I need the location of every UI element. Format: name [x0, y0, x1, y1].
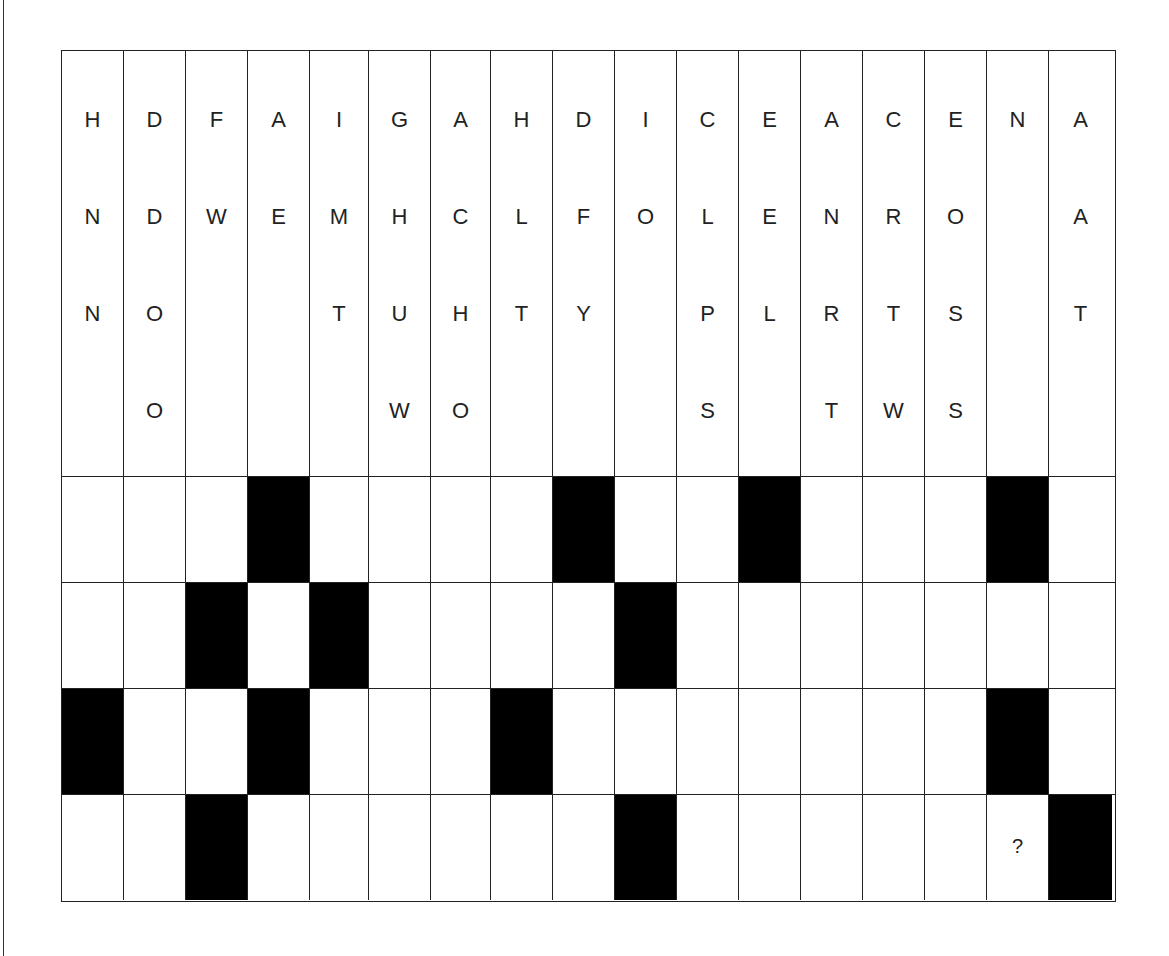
answer-cell[interactable]	[615, 689, 677, 794]
answer-cell[interactable]	[863, 689, 925, 794]
column-letter: N	[62, 303, 123, 325]
answer-cell[interactable]	[369, 689, 431, 794]
grid-row	[62, 583, 1115, 689]
answer-cell[interactable]	[431, 477, 491, 582]
answer-cell[interactable]	[186, 689, 248, 794]
column-letter: M	[310, 206, 368, 228]
column-letter: C	[863, 109, 924, 131]
letter-column: DFY	[553, 51, 615, 476]
answer-cell[interactable]	[677, 689, 739, 794]
column-letter: R	[863, 206, 924, 228]
answer-cell[interactable]	[925, 477, 987, 582]
column-letter: N	[987, 109, 1048, 131]
answer-cell[interactable]	[1049, 689, 1112, 794]
answer-cell[interactable]	[739, 795, 801, 900]
black-cell	[739, 477, 801, 582]
column-letter: W	[186, 206, 247, 228]
answer-cell[interactable]	[369, 795, 431, 900]
black-cell	[1049, 795, 1112, 900]
column-letter: H	[431, 303, 490, 325]
answer-cell[interactable]	[925, 583, 987, 688]
answer-cell[interactable]	[310, 477, 369, 582]
answer-cell[interactable]	[124, 477, 186, 582]
answer-cell[interactable]	[801, 477, 863, 582]
answer-cell[interactable]	[801, 689, 863, 794]
answer-cell[interactable]	[987, 583, 1049, 688]
answer-cell[interactable]	[248, 583, 310, 688]
column-letter: A	[1049, 206, 1112, 228]
letter-column: GHUW	[369, 51, 431, 476]
column-letter: L	[677, 206, 738, 228]
answer-cell[interactable]	[62, 477, 124, 582]
black-cell	[615, 795, 677, 900]
column-letter: H	[62, 109, 123, 131]
letter-column: IMT	[310, 51, 369, 476]
column-letter: T	[863, 303, 924, 325]
answer-cell[interactable]	[863, 477, 925, 582]
answer-cell[interactable]	[491, 583, 553, 688]
black-cell	[987, 477, 1049, 582]
black-cell	[186, 795, 248, 900]
answer-cell[interactable]	[801, 583, 863, 688]
column-letter: A	[801, 109, 862, 131]
answer-cell[interactable]	[186, 477, 248, 582]
column-letter: O	[925, 206, 986, 228]
answer-cell[interactable]	[1049, 477, 1112, 582]
letter-column: CRTW	[863, 51, 925, 476]
letter-column: DDOO	[124, 51, 186, 476]
answer-cell[interactable]	[553, 795, 615, 900]
answer-cell[interactable]	[925, 795, 987, 900]
answer-cell[interactable]	[615, 477, 677, 582]
quote-falls-puzzle: HNNDDOOFWAEIMTGHUWACHOHLTDFYIOCLPSEELANR…	[61, 50, 1116, 902]
page-left-border	[3, 0, 4, 956]
answer-cell[interactable]	[863, 583, 925, 688]
answer-cell[interactable]	[124, 689, 186, 794]
answer-cell[interactable]	[431, 795, 491, 900]
answer-cell[interactable]	[739, 689, 801, 794]
letter-column: EEL	[739, 51, 801, 476]
answer-cell[interactable]	[62, 795, 124, 900]
answer-cell[interactable]	[124, 795, 186, 900]
column-letter: D	[553, 109, 614, 131]
black-cell	[248, 477, 310, 582]
answer-cell[interactable]	[124, 583, 186, 688]
answer-cell[interactable]	[248, 795, 310, 900]
answer-cell[interactable]	[62, 583, 124, 688]
column-letter: S	[925, 303, 986, 325]
letter-column: CLPS	[677, 51, 739, 476]
answer-cell[interactable]	[431, 689, 491, 794]
answer-cell[interactable]: ?	[987, 795, 1049, 900]
answer-cell[interactable]	[801, 795, 863, 900]
answer-cell[interactable]	[369, 583, 431, 688]
letter-column: N	[987, 51, 1049, 476]
column-letter: A	[431, 109, 490, 131]
answer-cell[interactable]	[310, 689, 369, 794]
column-letter: T	[1049, 303, 1112, 325]
answer-cell[interactable]	[925, 689, 987, 794]
answer-cell[interactable]	[677, 583, 739, 688]
answer-cell[interactable]	[1049, 583, 1112, 688]
column-letter: E	[739, 206, 800, 228]
column-letter: H	[369, 206, 430, 228]
answer-cell[interactable]	[553, 689, 615, 794]
answer-cell[interactable]	[310, 795, 369, 900]
answer-cell[interactable]	[739, 583, 801, 688]
answer-cell[interactable]	[677, 795, 739, 900]
column-letter: E	[739, 109, 800, 131]
answer-cell[interactable]	[863, 795, 925, 900]
column-letter: C	[431, 206, 490, 228]
letter-column: AE	[248, 51, 310, 476]
column-letter: L	[491, 206, 552, 228]
letter-column: FW	[186, 51, 248, 476]
grid-row: ?	[62, 795, 1115, 900]
answer-cell[interactable]	[431, 583, 491, 688]
black-cell	[248, 689, 310, 794]
column-letter: P	[677, 303, 738, 325]
column-letter: G	[369, 109, 430, 131]
answer-cell[interactable]	[491, 795, 553, 900]
answer-cell[interactable]	[677, 477, 739, 582]
answer-cell[interactable]	[491, 477, 553, 582]
answer-cell[interactable]	[553, 583, 615, 688]
answer-cell[interactable]	[369, 477, 431, 582]
column-letter: R	[801, 303, 862, 325]
